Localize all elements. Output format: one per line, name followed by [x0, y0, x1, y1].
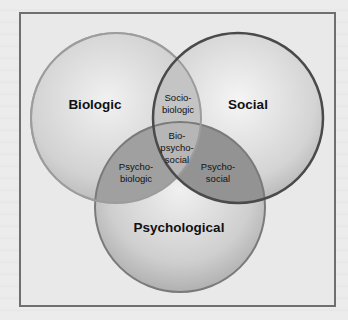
label-social: Social [228, 97, 268, 112]
label-psychobiologic-2: biologic [120, 173, 152, 184]
venn-diagram: Biologic Social Psychological Socio- bio… [0, 0, 348, 320]
label-sociobiologic-2: biologic [162, 104, 194, 115]
label-biologic: Biologic [68, 97, 122, 112]
label-biopsychosocial-1: Bio- [169, 130, 186, 141]
label-psychological: Psychological [134, 220, 225, 235]
label-sociobiologic-1: Socio- [165, 92, 192, 103]
label-biopsychosocial-3: social [165, 154, 189, 165]
label-biopsychosocial-2: psycho- [160, 142, 193, 153]
label-psychosocial-2: social [206, 173, 230, 184]
label-psychobiologic-1: Psycho- [119, 161, 153, 172]
label-psychosocial-1: Psycho- [201, 161, 235, 172]
